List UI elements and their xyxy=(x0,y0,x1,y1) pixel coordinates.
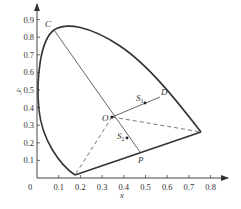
svg-text:0.2: 0.2 xyxy=(23,138,34,148)
y-tick-labels: 0.1 0.2 0.3 0.4 0.5 0.6 0.7 0.8 0.9 xyxy=(23,15,34,166)
x-axis-label: x xyxy=(119,190,124,200)
label-O: O xyxy=(102,113,109,123)
spectral-locus-curve xyxy=(38,26,201,175)
chromaticity-diagram: 0.1 0.2 0.3 0.4 0.5 0.6 0.7 0.8 0 x 0.1 … xyxy=(0,0,241,209)
svg-text:0.8: 0.8 xyxy=(23,32,34,42)
y-axis-label: y xyxy=(12,86,23,95)
svg-text:0.7: 0.7 xyxy=(184,182,195,192)
label-S1: S1 xyxy=(136,93,144,104)
label-D: D xyxy=(160,87,168,97)
label-C: C xyxy=(45,19,52,29)
dashed-O-red xyxy=(112,117,201,132)
svg-text:0.3: 0.3 xyxy=(23,120,34,130)
svg-text:0.1: 0.1 xyxy=(23,155,34,165)
line-C-P xyxy=(54,30,140,152)
svg-text:0.8: 0.8 xyxy=(205,182,216,192)
origin-label: 0 xyxy=(28,182,32,192)
label-S2: S2 xyxy=(117,131,125,142)
label-P: P xyxy=(137,155,144,165)
point-O xyxy=(110,115,113,118)
purple-line xyxy=(75,132,201,175)
x-tick-labels: 0.1 0.2 0.3 0.4 0.5 0.6 0.7 0.8 xyxy=(53,182,216,192)
point-S2 xyxy=(126,137,129,140)
svg-text:0.3: 0.3 xyxy=(97,182,108,192)
svg-text:0.5: 0.5 xyxy=(23,85,34,95)
svg-text:0.9: 0.9 xyxy=(23,15,34,25)
svg-text:0.2: 0.2 xyxy=(75,182,86,192)
dashed-O-violet xyxy=(75,117,112,175)
svg-text:0.7: 0.7 xyxy=(23,50,34,60)
svg-text:0.6: 0.6 xyxy=(23,67,34,77)
svg-text:0.6: 0.6 xyxy=(162,182,173,192)
svg-text:0.5: 0.5 xyxy=(140,182,151,192)
svg-text:0.4: 0.4 xyxy=(23,103,34,113)
point-S1 xyxy=(144,102,147,105)
svg-text:0.1: 0.1 xyxy=(53,182,64,192)
